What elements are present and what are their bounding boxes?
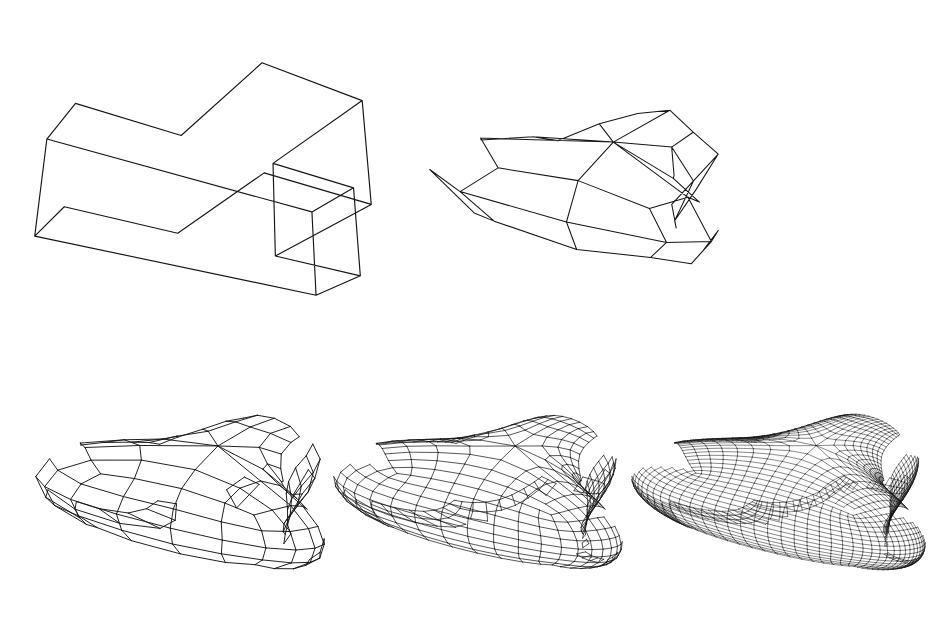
- subdivision-level-4-canvas: [626, 362, 931, 622]
- mesh-wireframe: [334, 415, 622, 568]
- panel-control-polyhedron: [28, 14, 378, 344]
- subdivision-level-2-canvas: [30, 362, 330, 622]
- panel-subdivision-level-3: [328, 362, 628, 622]
- mesh-wireframe: [632, 414, 925, 570]
- panel-subdivision-level-4: [626, 362, 931, 622]
- mesh-wireframe: [430, 110, 718, 264]
- subdivision-figure: [0, 0, 935, 632]
- subdivision-level-3-canvas: [328, 362, 628, 622]
- panel-subdivision-level-1: [424, 42, 724, 332]
- subdivision-level-1-canvas: [424, 42, 724, 332]
- mesh-wireframe: [35, 63, 372, 295]
- control-polyhedron-canvas: [28, 14, 378, 344]
- panel-subdivision-level-2: [30, 362, 330, 622]
- mesh-wireframe: [36, 415, 324, 569]
